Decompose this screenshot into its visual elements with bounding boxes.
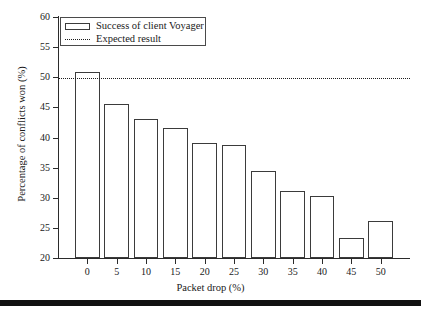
bar-15 [163, 128, 188, 258]
bar-40 [310, 196, 335, 258]
x-axis-tick [175, 259, 176, 264]
x-axis-tick-label: 50 [361, 266, 401, 277]
y-axis-tick [53, 228, 58, 229]
bar-45 [339, 238, 364, 258]
bar-5 [104, 104, 129, 258]
bar-20 [192, 143, 217, 258]
x-axis-tick [117, 259, 118, 264]
chart-legend: Success of client Voyager Expected resul… [60, 17, 206, 46]
legend-item-success: Success of client Voyager [65, 20, 202, 32]
bar-30 [251, 171, 276, 258]
y-axis-tick [53, 17, 58, 18]
legend-item-expected: Expected result [65, 33, 202, 45]
x-axis-title: Packet drop (%) [0, 282, 421, 294]
bar-10 [134, 119, 159, 258]
x-axis-tick [205, 259, 206, 264]
legend-dotted-swatch-icon [65, 39, 90, 40]
x-axis-tick [146, 259, 147, 264]
legend-label-expected: Expected result [96, 33, 161, 45]
expected-result-line [58, 78, 410, 79]
bar-25 [222, 145, 247, 258]
y-axis-tick [53, 198, 58, 199]
y-axis-tick [53, 258, 58, 259]
page-bottom-rule [0, 300, 421, 306]
bar-50 [368, 221, 393, 258]
bar-0 [75, 72, 100, 258]
y-axis-tick [53, 107, 58, 108]
bar-35 [280, 191, 305, 258]
chart-figure: Percentage of conflicts won (%) 20253035… [0, 0, 421, 310]
x-axis-tick [351, 259, 352, 264]
legend-bar-swatch-icon [65, 23, 90, 30]
y-axis-tick [53, 77, 58, 78]
x-axis-tick [381, 259, 382, 264]
x-axis-tick [293, 259, 294, 264]
x-axis-tick [234, 259, 235, 264]
y-axis-tick [53, 138, 58, 139]
x-axis-tick [87, 259, 88, 264]
plot-area [0, 0, 421, 310]
x-axis-tick [263, 259, 264, 264]
y-axis-tick [53, 47, 58, 48]
x-axis-tick [322, 259, 323, 264]
y-axis-tick [53, 168, 58, 169]
legend-label-success: Success of client Voyager [96, 20, 204, 32]
